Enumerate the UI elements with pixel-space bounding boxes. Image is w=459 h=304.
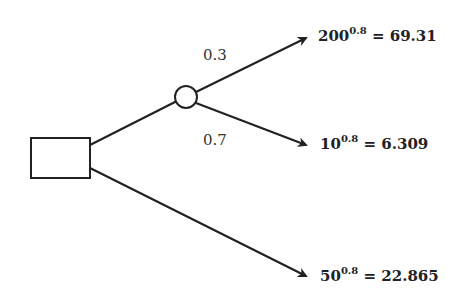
decision-node-square — [31, 138, 90, 178]
payoff-base: 50 — [320, 267, 341, 285]
payoff-base: 200 — [318, 27, 349, 45]
payoff-exponent: 0.8 — [349, 25, 366, 36]
branch-decision-to-chance — [90, 101, 177, 145]
payoff-label-3: 500.8 = 22.865 — [320, 267, 439, 285]
payoff-base: 10 — [320, 135, 341, 153]
probability-label-upper: 0.3 — [203, 46, 227, 64]
payoff-label-1: 2000.8 = 69.31 — [318, 27, 437, 45]
chance-node-circle — [175, 86, 197, 108]
payoff-exponent: 0.8 — [341, 133, 358, 144]
probability-label-lower: 0.7 — [203, 131, 227, 149]
branch-decision-to-outcome-3 — [90, 168, 306, 276]
payoff-exponent: 0.8 — [341, 265, 358, 276]
payoff-label-2: 100.8 = 6.309 — [320, 135, 428, 153]
payoff-result: = 22.865 — [364, 267, 439, 285]
payoff-result: = 69.31 — [372, 27, 437, 45]
payoff-result: = 6.309 — [364, 135, 429, 153]
